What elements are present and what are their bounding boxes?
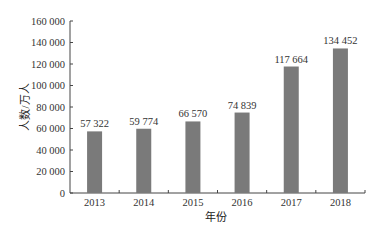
x-tick-label: 2018 <box>330 197 351 208</box>
y-tick-label: 60 000 <box>36 123 65 134</box>
x-tick-label: 2016 <box>232 197 253 208</box>
bar-value-label: 117 664 <box>274 54 308 65</box>
bar-value-label: 74 839 <box>228 100 257 111</box>
y-tick-label: 160 000 <box>31 16 65 27</box>
bar-2013 <box>87 131 102 193</box>
y-tick-label: 40 000 <box>36 145 65 156</box>
bar-chart: 020 00040 00060 00080 000100 000120 0001… <box>0 0 376 236</box>
y-axis: 020 00040 00060 00080 000100 000120 0001… <box>31 16 73 199</box>
bar-2015 <box>185 121 200 193</box>
bar-2017 <box>284 67 299 193</box>
bar-2018 <box>333 48 348 193</box>
x-axis-title: 年份 <box>205 210 227 223</box>
y-tick-label: 0 <box>60 188 65 199</box>
x-tick-label: 2013 <box>84 197 105 208</box>
x-tick-label: 2014 <box>133 197 155 208</box>
bar-2016 <box>235 113 250 193</box>
y-tick-label: 120 000 <box>31 59 65 70</box>
y-tick-label: 80 000 <box>36 102 65 113</box>
x-tick-label: 2015 <box>182 197 203 208</box>
y-tick-label: 140 000 <box>31 37 65 48</box>
bar-value-label: 134 452 <box>323 35 357 46</box>
bar-value-label: 59 774 <box>129 116 159 127</box>
y-tick-label: 100 000 <box>31 80 65 91</box>
x-tick-label: 2017 <box>281 197 302 208</box>
bar-value-label: 66 570 <box>178 108 207 119</box>
bars: 57 32259 77466 57074 839117 664134 452 <box>80 35 357 193</box>
y-tick-label: 20 000 <box>36 166 65 177</box>
bar-value-label: 57 322 <box>80 118 109 129</box>
bar-2014 <box>136 129 151 193</box>
y-axis-title: 人数/万人 <box>19 83 31 130</box>
x-axis: 201320142015201620172018 <box>70 190 365 208</box>
